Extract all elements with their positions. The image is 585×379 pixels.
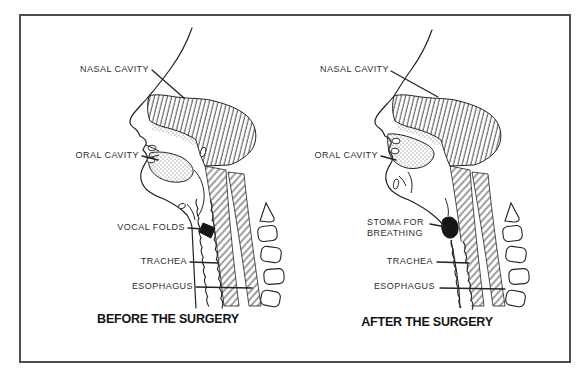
after-vertebrae-column (502, 203, 529, 308)
label-after-stoma-line2: BREATHING (367, 228, 447, 239)
caption-before-the-surgery: BEFORE THE SURGERY (68, 312, 268, 326)
label-before-trachea: TRACHEA (106, 256, 187, 267)
scanned-page: NASAL CAVITY ORAL CAVITY VOCAL FOLDS TRA… (0, 0, 585, 379)
label-before-nasal-cavity: NASAL CAVITY (58, 64, 149, 75)
leader-after-nasal-cavity (391, 71, 438, 97)
caption-after-the-surgery: AFTER THE SURGERY (327, 315, 527, 329)
label-after-stoma: STOMA FOR BREATHING (367, 217, 447, 238)
leader-before-nasal-cavity (152, 70, 184, 98)
label-before-oral-cavity: ORAL CAVITY (58, 150, 139, 161)
label-after-oral-cavity: ORAL CAVITY (297, 150, 378, 161)
label-after-esophagus: ESOPHAGUS (344, 281, 435, 292)
after-throat-details (399, 172, 448, 216)
before-vertebrae-column (257, 203, 284, 308)
before-hyoid (178, 202, 186, 209)
label-after-nasal-cavity: NASAL CAVITY (298, 64, 389, 75)
leader-before-esophagus (196, 287, 252, 288)
label-after-stoma-line1: STOMA FOR (367, 217, 447, 228)
after-uvula (393, 179, 400, 190)
figure-after-drawing (375, 30, 529, 310)
label-before-esophagus: ESOPHAGUS (102, 281, 193, 292)
label-after-trachea: TRACHEA (352, 256, 433, 267)
label-before-vocal-folds: VOCAL FOLDS (94, 222, 185, 233)
